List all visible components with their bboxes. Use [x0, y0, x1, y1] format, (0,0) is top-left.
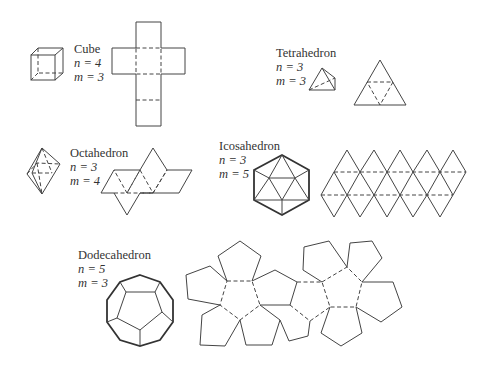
dodecahedron-label: Dodecahedron n = 5 m = 3 [78, 248, 151, 290]
cube-solid [31, 48, 63, 80]
tetrahedron-m: m = 3 [276, 74, 336, 88]
dodecahedron-name: Dodecahedron [78, 248, 151, 262]
octahedron-n: n = 3 [70, 160, 128, 174]
icosahedron-net [321, 150, 466, 217]
tetrahedron-n: n = 3 [276, 60, 336, 74]
cube-m: m = 3 [74, 70, 104, 84]
octahedron-solid [27, 148, 60, 194]
dodecahedron-m: m = 3 [78, 276, 151, 290]
cube-n: n = 4 [74, 56, 104, 70]
cube-name: Cube [74, 42, 104, 56]
icosahedron-name: Icosahedron [219, 139, 280, 153]
tetrahedron-net [354, 60, 406, 105]
octahedron-name: Octahedron [70, 146, 128, 160]
cube-net [112, 22, 185, 126]
octahedron-m: m = 4 [70, 174, 128, 188]
octahedron-label: Octahedron n = 3 m = 4 [70, 146, 128, 188]
dodecahedron-net [186, 241, 402, 346]
icosahedron-m: m = 5 [219, 167, 280, 181]
cube-label: Cube n = 4 m = 3 [74, 42, 104, 84]
tetrahedron-name: Tetrahedron [276, 46, 336, 60]
dodecahedron-n: n = 5 [78, 262, 151, 276]
icosahedron-label: Icosahedron n = 3 m = 5 [219, 139, 280, 181]
tetrahedron-label: Tetrahedron n = 3 m = 3 [276, 46, 336, 88]
icosahedron-n: n = 3 [219, 153, 280, 167]
